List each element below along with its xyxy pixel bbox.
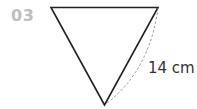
side-length-label: 14 cm: [148, 59, 195, 77]
triangle-shape: [51, 8, 158, 106]
triangle-diagram: 14 cm: [0, 0, 197, 109]
